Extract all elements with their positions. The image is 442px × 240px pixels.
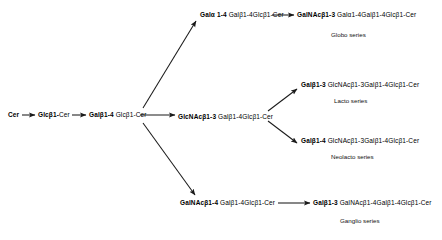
node-gangliotriaosylceramide-head: GalNAcβ1-4 <box>180 199 218 206</box>
node-lactosylceramide-head: Galβ1-4 <box>89 111 114 118</box>
node-ceramide-head: Cer <box>8 111 19 118</box>
node-globotriaosylceramide: Galα 1-4 Galβ1-4Glcβ1-Cer <box>200 12 284 19</box>
arrow-lc3cer-to-nlc4cer <box>268 121 297 143</box>
node-gangliotetraosylceramide: Galβ1-3 GalNAcβ1-4Galβ1-4Glcβ1-Cer <box>313 200 432 207</box>
node-lactotriaosylceramide-tail: Galβ1-4Glcβ1-Cer <box>216 113 273 120</box>
node-ceramide: Cer <box>8 112 19 119</box>
caption-lacto-series: Lacto series <box>334 98 367 104</box>
node-lactotetraosylceramide-tail: GlcNAcβ1-3Galβ1-4Glcβ1-Cer <box>326 81 419 88</box>
arrow-laccer-to-gb3cer <box>143 21 196 108</box>
node-lactotriaosylceramide-head: GlcNAcβ1-3 <box>178 113 216 120</box>
caption-neolacto-series: Neolacto series <box>331 154 374 160</box>
node-neolactotetraosylceramide-head: Galβ1-4 <box>301 137 326 144</box>
node-neolactotetraosylceramide: Galβ1-4 GlcNAcβ1-3Galβ1-4Glcβ1-Cer <box>301 138 419 145</box>
node-glucosylceramide-tail: Cer <box>59 111 70 118</box>
pathway-diagram: Cer Glcβ1-Cer Galβ1-4 Glcβ1-Cer Galα 1-4… <box>0 0 442 240</box>
node-globoside-tail: Galα1-4Galβ1-4Glcβ1-Cer <box>335 11 416 18</box>
node-globotriaosylceramide-tail: Galβ1-4Glcβ1-Cer <box>227 11 284 18</box>
node-lactotriaosylceramide: GlcNAcβ1-3 Galβ1-4Glcβ1-Cer <box>178 114 273 121</box>
node-globoside: GalNAcβ1-3 Galα1-4Galβ1-4Glcβ1-Cer <box>297 12 416 19</box>
node-lactotetraosylceramide-head: Galβ1-3 <box>301 81 326 88</box>
node-gangliotetraosylceramide-tail: GalNAcβ1-4Galβ1-4Glcβ1-Cer <box>338 199 432 206</box>
node-globotriaosylceramide-head: Galα 1-4 <box>200 11 227 18</box>
node-lactosylceramide: Galβ1-4 Glcβ1-Cer <box>89 112 147 119</box>
node-lactosylceramide-tail: Glcβ1-Cer <box>114 111 147 118</box>
node-glucosylceramide: Glcβ1-Cer <box>38 112 70 119</box>
node-gangliotriaosylceramide: GalNAcβ1-4 Galβ1-4Glcβ1-Cer <box>180 200 275 207</box>
node-lactotetraosylceramide: Galβ1-3 GlcNAcβ1-3Galβ1-4Glcβ1-Cer <box>301 82 419 89</box>
node-globoside-head: GalNAcβ1-3 <box>297 11 335 18</box>
arrow-laccer-to-gg3cer <box>143 123 195 195</box>
caption-globo-series: Globo series <box>331 32 366 38</box>
arrow-lc3cer-to-lc4cer <box>268 89 297 111</box>
node-gangliotriaosylceramide-tail: Galβ1-4Glcβ1-Cer <box>218 199 275 206</box>
node-gangliotetraosylceramide-head: Galβ1-3 <box>313 199 338 206</box>
node-glucosylceramide-head: Glcβ1- <box>38 111 59 118</box>
caption-ganglio-series: Ganglio series <box>340 218 380 224</box>
node-neolactotetraosylceramide-tail: GlcNAcβ1-3Galβ1-4Glcβ1-Cer <box>326 137 419 144</box>
